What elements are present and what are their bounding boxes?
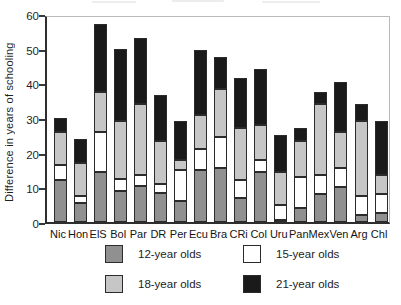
x-tick-label-Chl: Chl — [366, 228, 392, 240]
bar-segment-Nic-12-year-olds — [54, 180, 67, 222]
bar-segment-Chl-21-year-olds — [375, 121, 388, 175]
bar-segment-Pan-12-year-olds — [294, 208, 307, 222]
bar-Per — [174, 14, 187, 222]
bar-segment-DR-18-year-olds — [154, 141, 167, 184]
bar-segment-Per-12-year-olds — [174, 201, 187, 222]
bar-segment-ElS-21-year-olds — [94, 24, 107, 92]
bar-Arg — [355, 14, 368, 222]
scan-artifact — [262, 1, 320, 3]
bar-Bra — [214, 14, 227, 222]
bar-segment-CRi-15-year-olds — [234, 180, 247, 197]
bar-segment-Ven-21-year-olds — [334, 82, 347, 132]
legend-swatch-18-year-olds — [105, 275, 123, 293]
bar-segment-Mex-12-year-olds — [314, 194, 327, 222]
bar-segment-Ven-18-year-olds — [334, 132, 347, 168]
bar-segment-Hon-15-year-olds — [74, 196, 87, 203]
bar-segment-Bra-18-year-olds — [214, 89, 227, 138]
bar-segment-Per-15-year-olds — [174, 170, 187, 201]
bar-segment-Hon-18-year-olds — [74, 163, 87, 196]
bar-segment-Nic-15-year-olds — [54, 165, 67, 181]
legend-swatch-12-year-olds — [105, 245, 123, 263]
bar-segment-Pan-21-year-olds — [294, 128, 307, 140]
bar-segment-Bol-21-year-olds — [114, 49, 127, 122]
bar-segment-Mex-18-year-olds — [314, 104, 327, 175]
bar-segment-Uru-15-year-olds — [274, 205, 287, 221]
bar-segment-Per-18-year-olds — [174, 160, 187, 170]
bar-segment-Chl-15-year-olds — [375, 194, 388, 213]
bar-segment-Arg-12-year-olds — [355, 215, 368, 222]
bar-Par — [134, 14, 147, 222]
bar-segment-DR-15-year-olds — [154, 184, 167, 193]
bar-segment-Arg-18-year-olds — [355, 121, 368, 196]
bar-segment-Mex-15-year-olds — [314, 175, 327, 194]
bar-segment-Bra-21-year-olds — [214, 57, 227, 88]
bar-DR — [154, 14, 167, 222]
bar-Hon — [74, 14, 87, 222]
bar-segment-Ecu-12-year-olds — [194, 170, 207, 222]
bar-segment-Arg-15-year-olds — [355, 196, 368, 215]
bar-segment-Bol-15-year-olds — [114, 179, 127, 191]
bar-segment-Bra-15-year-olds — [214, 137, 227, 168]
bar-segment-Col-12-year-olds — [254, 172, 267, 222]
bar-segment-Uru-21-year-olds — [274, 135, 287, 171]
y-tick-label-50: 50 — [13, 45, 39, 57]
bar-segment-Par-15-year-olds — [134, 175, 147, 185]
bar-Mex — [314, 14, 327, 222]
bar-segment-Uru-18-year-olds — [274, 172, 287, 205]
legend-swatch-21-year-olds — [243, 275, 261, 293]
bar-Bol — [114, 14, 127, 222]
bar-segment-Arg-21-year-olds — [355, 104, 368, 121]
y-tick-label-60: 60 — [13, 10, 39, 22]
bar-segment-Col-21-year-olds — [254, 69, 267, 124]
bar-Ecu — [194, 14, 207, 222]
scan-artifact — [172, 0, 224, 2]
legend-label: 18-year olds — [138, 275, 201, 294]
bar-Nic — [54, 14, 67, 222]
bar-segment-Par-21-year-olds — [134, 38, 147, 104]
bar-segment-Chl-18-year-olds — [375, 175, 388, 194]
bar-segment-Ven-15-year-olds — [334, 168, 347, 187]
bars-container — [47, 17, 389, 222]
y-tick-label-30: 30 — [13, 114, 39, 126]
bar-segment-ElS-15-year-olds — [94, 132, 107, 172]
bar-segment-ElS-18-year-olds — [94, 92, 107, 132]
bar-segment-Pan-18-year-olds — [294, 141, 307, 177]
bar-segment-Hon-21-year-olds — [74, 139, 87, 163]
bar-Ven — [334, 14, 347, 222]
bar-segment-Ecu-15-year-olds — [194, 149, 207, 170]
bar-segment-CRi-18-year-olds — [234, 128, 247, 180]
bar-segment-Pan-15-year-olds — [294, 177, 307, 208]
y-tick-label-0: 0 — [13, 218, 39, 230]
bar-segment-CRi-12-year-olds — [234, 198, 247, 222]
y-tick-label-40: 40 — [13, 79, 39, 91]
bar-segment-Ecu-18-year-olds — [194, 115, 207, 150]
bar-segment-DR-21-year-olds — [154, 95, 167, 140]
legend-swatch-15-year-olds — [243, 245, 261, 263]
plot-area — [45, 16, 390, 224]
legend-label: 15-year olds — [276, 245, 339, 264]
bar-CRi — [234, 14, 247, 222]
scan-artifact — [92, 1, 136, 3]
bar-segment-Par-18-year-olds — [134, 104, 147, 175]
bar-ElS — [94, 14, 107, 222]
bar-segment-Chl-12-year-olds — [375, 213, 388, 222]
bar-segment-Bol-12-year-olds — [114, 191, 127, 222]
legend-label: 12-year olds — [138, 245, 201, 264]
bar-segment-ElS-12-year-olds — [94, 172, 107, 222]
bar-segment-Col-15-year-olds — [254, 160, 267, 172]
bar-segment-Mex-21-year-olds — [314, 92, 327, 104]
y-tick-label-20: 20 — [13, 149, 39, 161]
bar-Col — [254, 14, 267, 222]
bar-segment-Uru-12-year-olds — [274, 220, 287, 222]
bar-segment-Ecu-21-year-olds — [194, 50, 207, 114]
bar-segment-Par-12-year-olds — [134, 186, 147, 222]
bar-segment-CRi-21-year-olds — [234, 78, 247, 128]
bar-segment-Col-18-year-olds — [254, 125, 267, 160]
legend-label: 21-year olds — [276, 275, 339, 294]
bar-segment-Bra-12-year-olds — [214, 168, 227, 222]
bar-Uru — [274, 14, 287, 222]
bar-segment-Bol-18-year-olds — [114, 121, 127, 178]
bar-segment-Nic-21-year-olds — [54, 118, 67, 132]
bar-segment-Hon-12-year-olds — [74, 203, 87, 222]
y-tick-label-10: 10 — [13, 183, 39, 195]
